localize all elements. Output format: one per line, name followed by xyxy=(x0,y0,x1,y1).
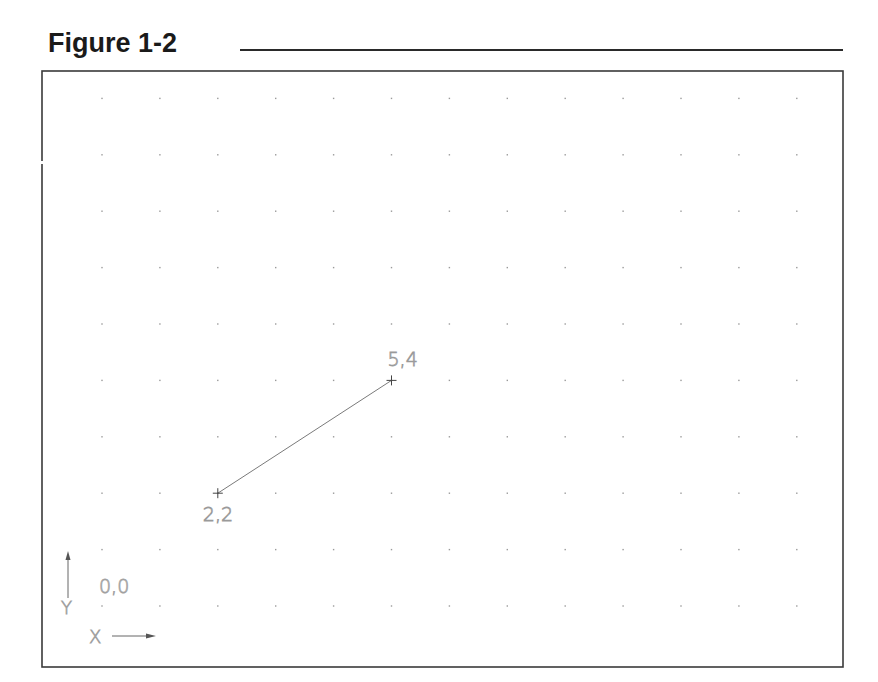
grid-dot xyxy=(738,493,739,494)
grid-dot xyxy=(796,380,797,381)
cad-drawing: 2,25,4 0,0 Y X xyxy=(0,0,878,682)
grid-dot xyxy=(680,605,681,606)
grid-dot xyxy=(507,436,508,437)
grid-dot xyxy=(217,154,218,155)
grid-dot xyxy=(159,267,160,268)
grid-dot xyxy=(391,154,392,155)
grid-dot xyxy=(796,436,797,437)
grid-dot xyxy=(680,98,681,99)
grid-dot xyxy=(565,211,566,212)
grid-dot xyxy=(391,267,392,268)
grid-dot xyxy=(680,436,681,437)
grid-dot xyxy=(217,380,218,381)
grid-dot xyxy=(391,605,392,606)
grid-dot xyxy=(565,267,566,268)
grid-dot xyxy=(159,436,160,437)
grid-dot xyxy=(217,98,218,99)
grid-dot xyxy=(796,323,797,324)
grid-dot xyxy=(507,549,508,550)
grid-dot xyxy=(217,605,218,606)
grid-dot xyxy=(101,549,102,550)
grid-dot xyxy=(217,211,218,212)
grid-dot xyxy=(796,211,797,212)
grid-dot xyxy=(217,267,218,268)
grid-dot xyxy=(333,98,334,99)
line-segment[interactable] xyxy=(218,380,392,493)
x-axis-label: X xyxy=(89,626,101,647)
grid-dot xyxy=(507,380,508,381)
grid-dot xyxy=(159,605,160,606)
grid-dot xyxy=(680,323,681,324)
grid-dot xyxy=(449,436,450,437)
grid-dot xyxy=(622,436,623,437)
grid-dot xyxy=(101,211,102,212)
grid-dot xyxy=(680,380,681,381)
grid-dot xyxy=(565,605,566,606)
origin-label: 0,0 xyxy=(99,575,129,597)
grid-dot xyxy=(391,436,392,437)
grid-dot xyxy=(796,493,797,494)
grid-dot xyxy=(565,154,566,155)
ucs-icon: Y X xyxy=(61,551,156,647)
grid-dot xyxy=(275,98,276,99)
grid-dot xyxy=(449,380,450,381)
grid-dot xyxy=(101,98,102,99)
y-axis-arrowhead-icon xyxy=(66,551,71,560)
grid-dot xyxy=(333,493,334,494)
grid-dot xyxy=(507,211,508,212)
grid-dot xyxy=(738,436,739,437)
grid-dot xyxy=(333,549,334,550)
grid-dot xyxy=(275,493,276,494)
grid-dot xyxy=(680,154,681,155)
grid-dot xyxy=(622,493,623,494)
grid-dot xyxy=(159,549,160,550)
grid-dot xyxy=(275,380,276,381)
grid-dot xyxy=(333,380,334,381)
grid-dot xyxy=(159,154,160,155)
grid-dot xyxy=(622,98,623,99)
grid-dot xyxy=(738,605,739,606)
grid-dot xyxy=(738,267,739,268)
grid-dot xyxy=(565,549,566,550)
grid-dot xyxy=(217,323,218,324)
grid-dot xyxy=(333,154,334,155)
grid-dot xyxy=(217,549,218,550)
grid-dot xyxy=(159,98,160,99)
grid-dot xyxy=(507,493,508,494)
grid-dot xyxy=(159,323,160,324)
grid-dot xyxy=(449,98,450,99)
grid-dot xyxy=(507,98,508,99)
grid-dot xyxy=(391,211,392,212)
grid-dot xyxy=(449,211,450,212)
grid-dot xyxy=(101,267,102,268)
grid-dot xyxy=(796,154,797,155)
grid-dot xyxy=(738,549,739,550)
y-axis-label: Y xyxy=(61,597,72,618)
grid-dot xyxy=(738,380,739,381)
grid-dot xyxy=(565,436,566,437)
grid-dot xyxy=(275,549,276,550)
grid-dot xyxy=(275,211,276,212)
grid-dot xyxy=(507,154,508,155)
grid-dot xyxy=(738,98,739,99)
grid-dot xyxy=(275,267,276,268)
grid-dot xyxy=(622,323,623,324)
grid-dot xyxy=(796,549,797,550)
point-label: 5,4 xyxy=(388,348,418,370)
grid-dot xyxy=(275,323,276,324)
grid-dot xyxy=(507,323,508,324)
grid-dot xyxy=(275,605,276,606)
grid-dot xyxy=(565,98,566,99)
grid-dot xyxy=(101,380,102,381)
drawing-frame xyxy=(42,71,843,667)
grid-dot xyxy=(796,98,797,99)
grid-dot xyxy=(333,436,334,437)
grid-dot xyxy=(507,605,508,606)
grid-dot xyxy=(622,605,623,606)
grid-dot xyxy=(275,436,276,437)
grid-dot xyxy=(796,267,797,268)
grid-dot xyxy=(275,154,276,155)
grid-dot xyxy=(159,493,160,494)
grid-dot xyxy=(391,549,392,550)
grid-dot xyxy=(680,267,681,268)
